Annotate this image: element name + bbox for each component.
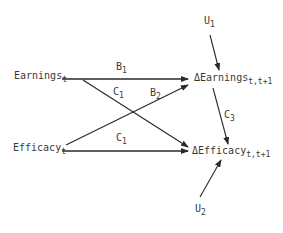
node-delta-efficacy-main: ΔEfficacy [192,145,246,156]
node-delta-efficacy-sub: t,t+1 [246,150,270,159]
edge-earnings-to-delta-efficacy [83,80,188,147]
edge-label-b2-sub: 2 [156,92,161,101]
path-diagram: Earningst Efficacyt ΔEarningst,t+1 ΔEffi… [0,0,283,233]
edge-u1-to-delta-earnings [210,35,219,70]
node-delta-efficacy: ΔEfficacyt,t+1 [192,145,270,158]
node-delta-earnings-sub: t,t+1 [248,77,272,86]
edge-label-c1-upper: C1 [113,86,124,99]
node-delta-earnings-main: ΔEarnings [194,72,248,83]
edge-label-c1-lower: C1 [116,132,127,145]
edge-label-c1-lower-sub: 1 [122,137,127,146]
edge-label-c3: C3 [224,109,235,122]
node-delta-earnings: ΔEarningst,t+1 [194,72,272,85]
node-u1-sub: 1 [210,20,215,29]
edge-label-b1: B1 [116,61,127,74]
edge-label-b1-sub: 1 [122,66,127,75]
edge-label-c3-sub: 3 [230,114,235,123]
node-u1: U1 [204,15,215,28]
node-efficacy-t-main: Efficacy [13,142,61,153]
node-efficacy-t: Efficacyt [13,142,66,155]
node-u2-sub: 2 [201,208,206,217]
node-efficacy-t-sub: t [61,147,66,156]
node-earnings-t-main: Earnings [14,70,62,81]
node-earnings-t: Earningst [14,70,67,83]
edge-label-b2: B2 [150,87,161,100]
edge-label-c1-upper-sub: 1 [119,91,124,100]
node-u2: U2 [195,203,206,216]
node-earnings-t-sub: t [62,75,67,84]
diagram-edges [0,0,283,233]
edge-u2-to-delta-efficacy [200,160,221,197]
